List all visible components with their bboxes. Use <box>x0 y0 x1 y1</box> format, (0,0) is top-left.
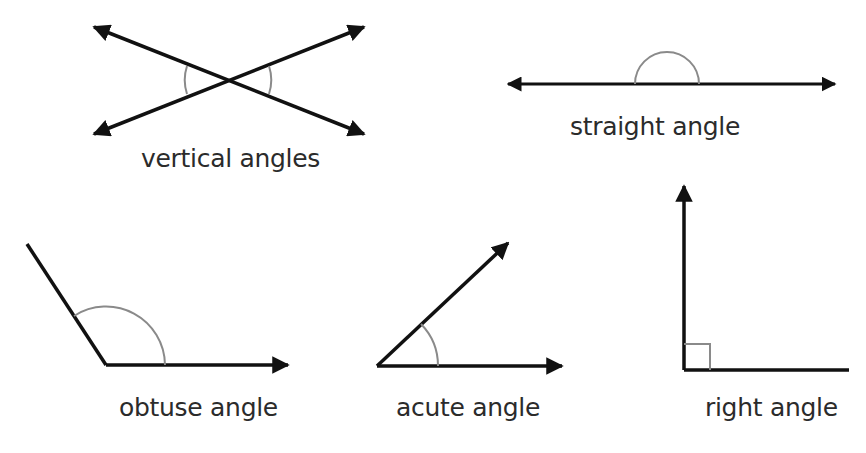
angle-types-diagram <box>0 0 866 453</box>
right-angle-square <box>684 344 710 370</box>
straight-angle-label: straight angle <box>570 112 740 141</box>
right-angle-label: right angle <box>705 393 838 422</box>
vertical-angles-label: vertical angles <box>141 144 320 173</box>
acute-angle-figure <box>377 243 562 366</box>
obtuse-ray-left <box>27 244 106 365</box>
right-angle-figure <box>684 186 849 370</box>
left-angle-arc <box>185 66 187 94</box>
acute-angle-arc <box>421 324 438 366</box>
obtuse-angle-figure <box>27 244 288 365</box>
straight-angle-figure <box>508 52 835 84</box>
acute-angle-label: acute angle <box>396 393 540 422</box>
straight-angle-arc <box>635 52 699 84</box>
right-angle-arc <box>269 66 271 94</box>
obtuse-angle-label: obtuse angle <box>119 393 278 422</box>
acute-ray-up <box>377 243 508 366</box>
vertical-angles-figure <box>94 27 364 134</box>
